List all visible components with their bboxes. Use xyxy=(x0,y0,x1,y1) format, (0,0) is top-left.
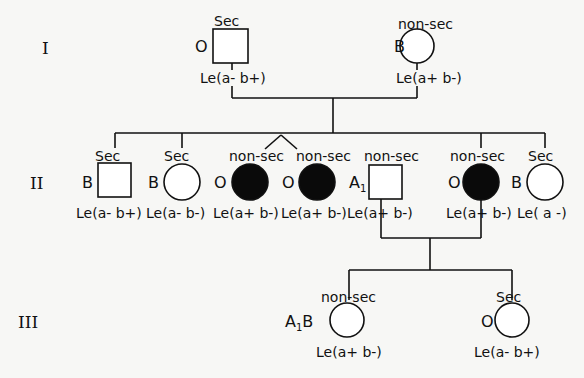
III-2-circle xyxy=(495,303,529,337)
I-2-secretor: non-sec xyxy=(398,17,453,31)
III-2-lewis: Le(a- b+) xyxy=(474,345,540,359)
II-1-secretor: Sec xyxy=(95,149,120,163)
I-2-lewis: Le(a+ b-) xyxy=(396,71,462,85)
II-3-secretor: non-sec xyxy=(229,149,284,163)
II-2-blood-group: B xyxy=(148,175,159,191)
II-6-circle xyxy=(463,164,499,200)
I-1-blood-group: O xyxy=(195,39,208,55)
II-5-secretor: non-sec xyxy=(364,149,419,163)
I-2-circle xyxy=(400,29,434,63)
generation-label-III: III xyxy=(18,314,38,331)
II-5-square xyxy=(369,165,402,199)
I-1-secretor: Sec xyxy=(214,14,239,28)
III-1-lewis: Le(a+ b-) xyxy=(316,345,382,359)
II-5-blood-group: A1 xyxy=(349,175,366,194)
III-1-circle xyxy=(330,303,364,337)
II-7-blood-group: B xyxy=(511,175,522,191)
III-2-blood-group: O xyxy=(481,314,494,330)
generation-label-II: II xyxy=(30,175,43,192)
II-2-circle xyxy=(164,164,200,200)
II-5-lewis: Le(a+ b-) xyxy=(347,206,413,220)
II-4-circle xyxy=(299,164,335,200)
II-4-secretor: non-sec xyxy=(296,149,351,163)
II-1-blood-group: B xyxy=(82,175,93,191)
II-3-blood-group: O xyxy=(214,175,227,191)
II-4-blood-group: O xyxy=(282,175,295,191)
I-2-blood-group: B xyxy=(394,39,405,55)
II-2-secretor: Sec xyxy=(164,149,189,163)
II-6-blood-group: O xyxy=(448,175,461,191)
I-1-lewis: Le(a- b+) xyxy=(200,71,266,85)
II-7-circle xyxy=(527,164,563,200)
II-1-lewis: Le(a- b+) xyxy=(76,206,142,220)
II-4-lewis: Le(a+ b-) xyxy=(281,206,347,220)
II-6-lewis: Le(a+ b-) xyxy=(446,206,512,220)
II-7-lewis: Le( a -) xyxy=(517,206,567,220)
III-1-secretor: non-sec xyxy=(321,290,376,304)
II-1-square xyxy=(98,163,131,197)
generation-label-I: I xyxy=(42,40,49,57)
II-2-lewis: Le(a- b-) xyxy=(146,206,205,220)
II-3-lewis: Le(a+ b-) xyxy=(213,206,279,220)
III-1-blood-group: A1B xyxy=(285,314,313,333)
II-7-secretor: Sec xyxy=(528,149,553,163)
II-3-circle xyxy=(232,164,268,200)
I-1-square xyxy=(213,29,248,63)
II-6-secretor: non-sec xyxy=(450,149,505,163)
III-2-secretor: Sec xyxy=(496,290,521,304)
